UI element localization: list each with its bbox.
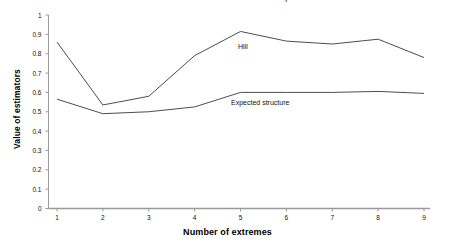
chart-figure: Hill and expected structure Value of est…: [0, 0, 455, 244]
chart-title-clip: Hill and expected structure: [248, 0, 358, 4]
y-tick-label: 0.5: [20, 108, 42, 115]
y-tick-label: 0.1: [20, 186, 42, 193]
y-tick-label: 0: [20, 205, 42, 212]
series-label-expected-structure: Expected structure: [231, 99, 289, 106]
y-tick-label: 0.6: [20, 89, 42, 96]
series-label-hill: Hill: [238, 43, 248, 50]
x-tick-label: 3: [141, 214, 157, 221]
x-axis-title: Number of extremes: [0, 227, 455, 237]
x-tick-label: 6: [278, 214, 294, 221]
y-tick-label: 0.2: [20, 166, 42, 173]
plot-area: [0, 0, 455, 244]
y-tick-label: 0.3: [20, 147, 42, 154]
x-tick-label: 5: [233, 214, 249, 221]
y-tick-label: 0.4: [20, 128, 42, 135]
x-tick-label: 8: [370, 214, 386, 221]
y-tick-label: 0.8: [20, 50, 42, 57]
x-tick-label: 4: [187, 214, 203, 221]
x-tick-label: 9: [416, 214, 432, 221]
y-tick-label: 0.9: [20, 31, 42, 38]
x-tick-label: 1: [49, 214, 65, 221]
y-tick-label: 0.7: [20, 70, 42, 77]
chart-title: Hill and expected structure: [248, 0, 343, 1]
x-tick-label: 2: [95, 214, 111, 221]
x-tick-label: 7: [324, 214, 340, 221]
y-tick-label: 1: [20, 12, 42, 19]
